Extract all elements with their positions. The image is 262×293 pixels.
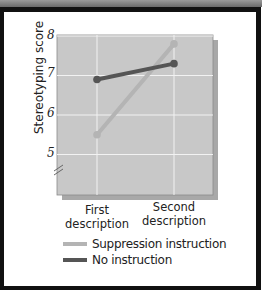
x-tick-second-line1: Second — [134, 200, 214, 214]
data-point-1-0 — [93, 76, 101, 84]
x-tick-first-line2: description — [57, 217, 137, 231]
y-tick-8: 8 — [47, 28, 55, 42]
legend-swatch-suppression — [63, 242, 87, 246]
data-point-0-0 — [93, 131, 101, 139]
legend-swatch-no-instruction — [63, 258, 87, 262]
y-tick-7: 7 — [47, 66, 55, 80]
legend-label-no-instruction: No instruction — [92, 253, 172, 267]
legend: Suppression instruction No instruction — [63, 236, 226, 268]
x-tick-second: Second description — [134, 200, 214, 228]
x-tick-first: First description — [57, 203, 137, 231]
x-tick-second-line2: description — [134, 214, 214, 228]
legend-item-no-instruction: No instruction — [63, 252, 226, 268]
y-tick-5: 5 — [47, 146, 55, 160]
data-point-0-1 — [170, 40, 178, 48]
y-tick-6: 6 — [47, 106, 55, 120]
data-point-1-1 — [170, 60, 178, 68]
x-tick-first-line1: First — [57, 203, 137, 217]
y-axis-label: Stereotyping score — [32, 21, 46, 134]
legend-label-suppression: Suppression instruction — [92, 237, 226, 251]
legend-item-suppression: Suppression instruction — [63, 236, 226, 252]
